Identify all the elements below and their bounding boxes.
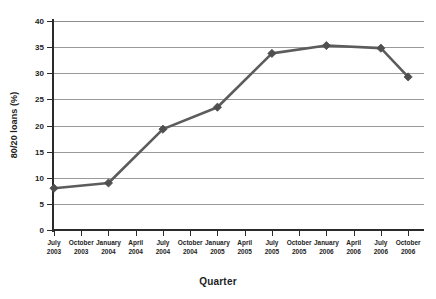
- x-axis-tick-layer: July2003October2003January2004April2004J…: [0, 0, 436, 299]
- x-tick-mark: [136, 231, 137, 236]
- x-tick-mark: [272, 231, 273, 236]
- x-tick-mark: [163, 231, 164, 236]
- x-tick-mark: [54, 231, 55, 236]
- x-tick-mark: [381, 231, 382, 236]
- x-tick-mark: [108, 231, 109, 236]
- line-chart-figure: 80/20 loans (%) 0510152025303540 July200…: [0, 0, 436, 299]
- x-tick-mark: [326, 231, 327, 236]
- x-tick-label-year: 2006: [385, 248, 431, 257]
- x-axis-title: Quarter: [0, 276, 436, 287]
- x-tick-mark: [217, 231, 218, 236]
- x-tick-mark: [354, 231, 355, 236]
- x-tick-mark: [408, 231, 409, 236]
- x-tick-mark: [190, 231, 191, 236]
- x-tick-mark: [81, 231, 82, 236]
- x-tick-label-month: October: [385, 239, 431, 248]
- x-tick-label: October2006: [385, 239, 431, 256]
- x-tick-mark: [299, 231, 300, 236]
- x-tick-mark: [245, 231, 246, 236]
